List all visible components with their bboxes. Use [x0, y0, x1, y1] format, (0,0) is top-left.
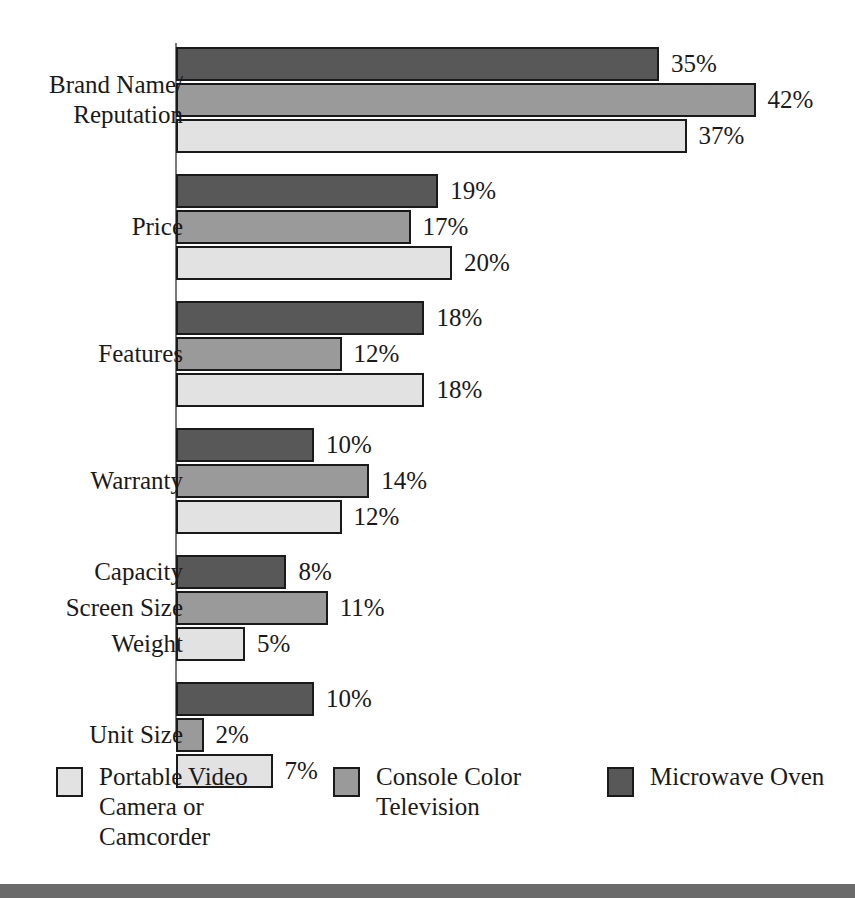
category-label-line: Price	[0, 212, 183, 242]
bar-value-label: 42%	[768, 83, 814, 117]
legend-label: Portable Video Camera or Camcorder	[99, 762, 248, 852]
bar-row: 19%	[0, 173, 855, 209]
bar-row: 10%	[0, 427, 855, 463]
footer-rule	[0, 884, 855, 898]
category-label-line: Unit Size	[0, 720, 183, 750]
bar-row: 5%Weight	[0, 626, 855, 662]
bar-group: 10%14%12%Warranty	[0, 427, 855, 535]
bar-value-label: 14%	[381, 464, 427, 498]
category-label: Weight	[0, 626, 183, 662]
bar-camcorder	[176, 373, 424, 407]
category-label: Price	[0, 212, 183, 242]
bar-camcorder	[176, 500, 342, 534]
bar-row: 20%	[0, 245, 855, 281]
category-label: Capacity	[0, 554, 183, 590]
legend-label: Console Color Television	[376, 762, 521, 822]
bar-value-label: 12%	[354, 500, 400, 534]
bar-value-label: 5%	[257, 627, 290, 661]
bar-row: 12%	[0, 499, 855, 535]
legend-label: Microwave Oven	[650, 762, 824, 792]
category-label: Screen Size	[0, 590, 183, 626]
bar-value-label: 10%	[326, 428, 372, 462]
legend-swatch-camcorder	[56, 767, 83, 797]
bar-television	[176, 210, 411, 244]
bar-camcorder	[176, 119, 687, 153]
category-label: Brand Name/Reputation	[0, 70, 183, 130]
plot-area: 35%42%37%Brand Name/Reputation19%17%20%P…	[0, 40, 855, 740]
bar-value-label: 19%	[450, 174, 496, 208]
category-label-line: Warranty	[0, 466, 183, 496]
bar-microwave	[176, 301, 424, 335]
bar-value-label: 35%	[671, 47, 717, 81]
bar-television	[176, 464, 369, 498]
bar-value-label: 17%	[423, 210, 469, 244]
bar-group: 19%17%20%Price	[0, 173, 855, 281]
horizontal-bar-chart: 35%42%37%Brand Name/Reputation19%17%20%P…	[0, 0, 855, 898]
legend-item-television[interactable]: Console Color Television	[333, 762, 521, 822]
bar-row: 18%	[0, 372, 855, 408]
category-label-line: Brand Name/	[0, 70, 183, 100]
bar-value-label: 18%	[436, 373, 482, 407]
bar-value-label: 37%	[699, 119, 745, 153]
bar-value-label: 2%	[216, 718, 249, 752]
category-label-line: Reputation	[0, 100, 183, 130]
bar-microwave	[176, 682, 314, 716]
legend-swatch-microwave	[607, 767, 634, 797]
bar-microwave	[176, 555, 286, 589]
legend-item-microwave[interactable]: Microwave Oven	[607, 762, 824, 797]
category-label: Warranty	[0, 466, 183, 496]
category-label: Features	[0, 339, 183, 369]
bar-microwave	[176, 47, 659, 81]
bar-television	[176, 591, 328, 625]
legend-swatch-television	[333, 767, 360, 797]
category-label: Unit Size	[0, 720, 183, 750]
bar-television	[176, 337, 342, 371]
bar-row: 10%	[0, 681, 855, 717]
bar-value-label: 20%	[464, 246, 510, 280]
bar-value-label: 10%	[326, 682, 372, 716]
category-label-line: Features	[0, 339, 183, 369]
bar-camcorder	[176, 627, 245, 661]
bar-value-label: 11%	[340, 591, 385, 625]
bar-value-label: 8%	[298, 555, 331, 589]
bar-group: 18%12%18%Features	[0, 300, 855, 408]
bar-television	[176, 83, 756, 117]
bar-group: 8%Capacity11%Screen Size5%Weight	[0, 554, 855, 662]
bar-value-label: 18%	[436, 301, 482, 335]
bar-row: 8%Capacity	[0, 554, 855, 590]
bar-row: 18%	[0, 300, 855, 336]
legend-item-camcorder[interactable]: Portable Video Camera or Camcorder	[56, 762, 248, 852]
bar-camcorder	[176, 246, 452, 280]
bar-microwave	[176, 428, 314, 462]
bar-value-label: 12%	[354, 337, 400, 371]
bar-group: 35%42%37%Brand Name/Reputation	[0, 46, 855, 154]
bar-row: 11%Screen Size	[0, 590, 855, 626]
chart-legend: Portable Video Camera or CamcorderConsol…	[0, 762, 855, 862]
bar-microwave	[176, 174, 438, 208]
